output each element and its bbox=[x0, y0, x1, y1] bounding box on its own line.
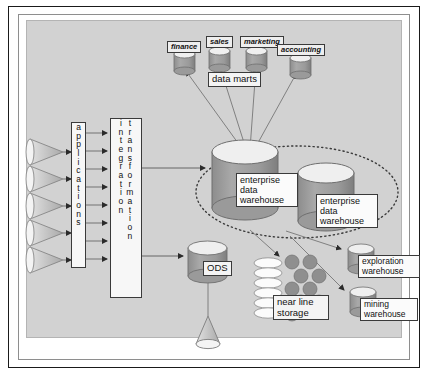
mining-warehouse-label[interactable]: mining warehouse bbox=[360, 298, 418, 321]
data-marts-group-label: data marts bbox=[208, 72, 261, 87]
near-line-storage-label[interactable]: near line storage bbox=[273, 295, 329, 320]
edw-label-secondary[interactable]: enterprise data warehouse bbox=[316, 194, 378, 228]
edw-label-primary[interactable]: enterprise data warehouse bbox=[236, 173, 298, 207]
applications-label: a p p l i c a t i o n s bbox=[76, 123, 81, 267]
data-mart-label-sales[interactable]: sales bbox=[206, 36, 233, 48]
data-mart-label-finance[interactable]: finance bbox=[167, 41, 201, 53]
transformation-label: t r a n s f o r m a t i o n bbox=[126, 119, 133, 297]
applications-box[interactable]: a p p l i c a t i o n s bbox=[71, 122, 86, 268]
ods-label[interactable]: ODS bbox=[203, 261, 232, 276]
diagram-canvas: a p p l i c a t i o n s i n t e g r a t … bbox=[0, 0, 430, 382]
data-mart-label-accounting[interactable]: accounting bbox=[277, 44, 325, 56]
exploration-warehouse-label[interactable]: exploration warehouse bbox=[358, 255, 420, 278]
integration-label: i n t e g r a t i o n bbox=[119, 119, 124, 297]
integration-transformation-box[interactable]: i n t e g r a t i o n t r a n s f o r m … bbox=[110, 118, 142, 298]
